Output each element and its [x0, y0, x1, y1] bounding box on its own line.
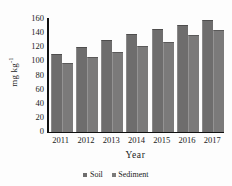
bar-soil-2012 [76, 47, 87, 131]
bar-soil-2017 [202, 20, 213, 132]
chart-legend: SoilSediment [0, 170, 232, 179]
y-axis-tick-label: 80 [24, 71, 44, 79]
bar-sediment-2016 [188, 35, 199, 132]
y-axis-tick-label: 140 [24, 28, 44, 36]
legend-item-soil: Soil [83, 170, 102, 179]
y-axis-tick-label: 100 [24, 56, 44, 64]
y-axis-tick-label: 20 [24, 113, 44, 121]
bar-soil-2014 [126, 34, 137, 132]
legend-label: Sediment [118, 170, 148, 179]
bar-group [51, 19, 73, 132]
bar-group [76, 19, 98, 132]
bar-sediment-2011 [62, 63, 73, 132]
bar-group [177, 19, 199, 132]
bar-soil-2016 [177, 25, 188, 132]
y-axis-tick-label: 120 [24, 42, 44, 50]
bar-group [126, 19, 148, 132]
y-axis-tick-label: 40 [24, 99, 44, 107]
x-axis-tick-labels: 2011201220132014201520162017 [47, 135, 224, 147]
legend-label: Soil [90, 170, 103, 179]
y-axis-title-text: mg kg [9, 63, 19, 87]
y-axis-tick-label: 0 [24, 127, 44, 135]
bar-sediment-2017 [213, 30, 224, 132]
bar-soil-2011 [51, 54, 62, 132]
bar-group [152, 19, 174, 132]
y-axis-tick-label: 160 [24, 14, 44, 22]
bar-sediment-2015 [163, 42, 174, 132]
y-axis-title: mg kg-1 [9, 44, 21, 100]
bar-group [101, 19, 123, 132]
y-axis-line [47, 18, 49, 133]
bar-sediment-2012 [87, 57, 98, 132]
bar-soil-2015 [152, 29, 163, 132]
x-axis-line [47, 132, 224, 133]
square-marker [83, 173, 87, 177]
y-axis-title-exponent: -1 [7, 57, 14, 63]
bar-sediment-2013 [112, 52, 123, 132]
bar-group [202, 19, 224, 132]
y-axis-tick-labels: 020406080100120140160 [24, 14, 44, 134]
plot-area [47, 18, 224, 133]
x-axis-tick-label: 2017 [197, 135, 227, 145]
legend-item-sediment: Sediment [112, 170, 149, 179]
bar-sediment-2014 [137, 46, 148, 132]
bar-chart: mg kg-1 020406080100120140160 2011201220… [0, 0, 232, 186]
bar-soil-2013 [101, 40, 112, 131]
x-axis-title: Year [47, 150, 224, 160]
y-axis-tick-label: 60 [24, 85, 44, 93]
square-marker [112, 173, 116, 177]
